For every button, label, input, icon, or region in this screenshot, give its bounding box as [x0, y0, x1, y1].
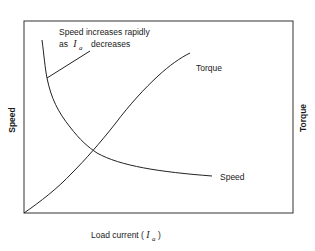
plot-frame	[24, 21, 293, 213]
annotation-as: as	[59, 39, 68, 49]
torque-curve-label: Torque	[196, 63, 222, 73]
x-axis-label-symbol: I	[145, 229, 150, 240]
speed-torque-chart: Speed increases rapidly as I a decreases…	[0, 0, 315, 251]
y-axis-left-label: Speed	[7, 107, 17, 133]
annotation-symbol: I	[72, 38, 77, 49]
x-axis-label-prefix: Load current (	[91, 230, 144, 240]
annotation-line-1: Speed increases rapidly	[59, 27, 150, 37]
annotation-pointer	[47, 51, 90, 78]
annotation-subscript: a	[79, 44, 83, 52]
y-axis-right-label: Torque	[298, 104, 308, 132]
annotation-line-2: as I a decreases	[59, 38, 130, 52]
speed-curve-label: Speed	[220, 172, 245, 182]
x-axis-label-suffix: )	[158, 230, 161, 240]
speed-curve	[42, 40, 212, 176]
annotation-decreases: decreases	[91, 39, 130, 49]
x-axis-label-subscript: a	[152, 235, 156, 243]
x-axis-label: Load current ( I a )	[91, 229, 161, 243]
